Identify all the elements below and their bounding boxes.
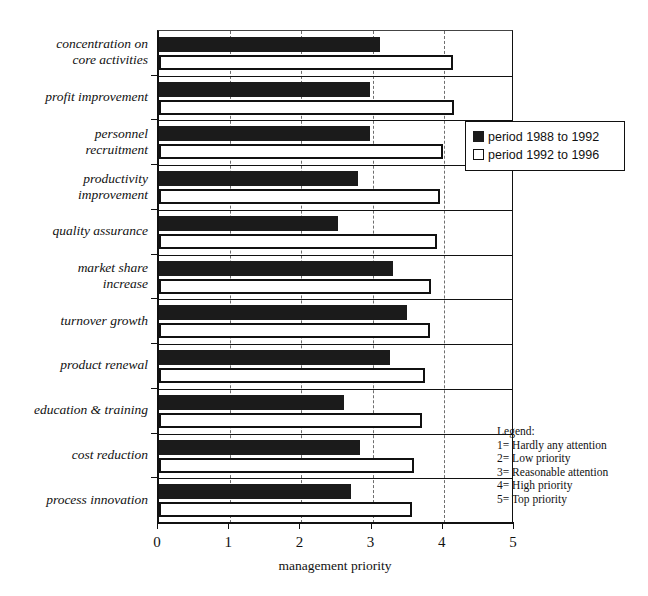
category-separator xyxy=(159,120,512,121)
scale-legend-heading: Legend: xyxy=(497,425,608,439)
scale-legend-line-1: 1= Hardly any attention xyxy=(497,439,608,453)
category-separator xyxy=(159,299,512,300)
scale-legend-line-3: 3= Reasonable attention xyxy=(497,466,608,480)
bar-period-1992-1996 xyxy=(159,502,412,517)
bar-chart: concentration oncore activitiesprofit im… xyxy=(0,0,648,596)
category-label-line: market share xyxy=(0,260,148,276)
legend-swatch-dark xyxy=(473,131,484,142)
bar-period-1988-1992 xyxy=(159,261,393,276)
category-label: education & training xyxy=(0,388,148,433)
category-separator xyxy=(159,76,512,77)
category-label-line: profit improvement xyxy=(0,89,148,105)
x-axis-tick xyxy=(299,522,300,529)
bar-period-1992-1996 xyxy=(159,234,437,249)
x-axis-tick xyxy=(371,522,372,529)
bar-period-1988-1992 xyxy=(159,350,390,365)
category-band xyxy=(159,255,512,300)
category-label-line: product renewal xyxy=(0,357,148,373)
scale-legend-line-5: 5= Top priority xyxy=(497,493,608,507)
x-axis-tick xyxy=(157,522,158,529)
category-band xyxy=(159,434,512,479)
category-separator xyxy=(159,344,512,345)
category-band xyxy=(159,478,512,523)
category-label: quality assurance xyxy=(0,209,148,254)
category-label: turnover growth xyxy=(0,298,148,343)
bar-period-1992-1996 xyxy=(159,323,430,338)
category-separator xyxy=(159,434,512,435)
category-label-line: improvement xyxy=(0,187,148,203)
category-separator xyxy=(159,389,512,390)
x-axis-tick-label: 0 xyxy=(142,534,172,551)
category-label: personnelrecruitment xyxy=(0,119,148,164)
category-label-line: process innovation xyxy=(0,492,148,508)
category-label-line: increase xyxy=(0,276,148,292)
scale-legend-line-4: 4= High priority xyxy=(497,479,608,493)
x-axis-tick-label: 4 xyxy=(427,534,457,551)
category-band xyxy=(159,120,512,165)
x-axis-title: management priority xyxy=(157,558,513,574)
category-separator xyxy=(159,255,512,256)
bar-period-1992-1996 xyxy=(159,144,443,159)
category-separator xyxy=(159,478,512,479)
category-label-line: education & training xyxy=(0,402,148,418)
category-label: cost reduction xyxy=(0,433,148,478)
category-axis: concentration oncore activitiesprofit im… xyxy=(0,30,150,522)
x-axis-line xyxy=(157,522,513,524)
bar-period-1992-1996 xyxy=(159,458,414,473)
category-band xyxy=(159,344,512,389)
category-label: concentration oncore activities xyxy=(0,30,148,75)
scale-legend-line-2: 2= Low priority xyxy=(497,452,608,466)
category-label-line: turnover growth xyxy=(0,313,148,329)
category-label-line: core activities xyxy=(0,52,148,68)
bar-period-1992-1996 xyxy=(159,100,454,115)
category-band xyxy=(159,76,512,121)
legend-swatch-light xyxy=(473,149,484,160)
bar-period-1992-1996 xyxy=(159,279,431,294)
category-band xyxy=(159,389,512,434)
category-band xyxy=(159,31,512,76)
bar-period-1988-1992 xyxy=(159,305,407,320)
category-label: product renewal xyxy=(0,343,148,388)
x-axis-tick-label: 1 xyxy=(213,534,243,551)
scale-legend: Legend: 1= Hardly any attention 2= Low p… xyxy=(497,425,608,506)
category-band xyxy=(159,165,512,210)
legend-item-period-1992-1996: period 1992 to 1996 xyxy=(473,146,618,163)
category-band xyxy=(159,299,512,344)
bar-period-1988-1992 xyxy=(159,171,358,186)
legend-label-2: period 1992 to 1996 xyxy=(488,148,599,162)
bar-period-1992-1996 xyxy=(159,189,440,204)
bar-period-1988-1992 xyxy=(159,395,344,410)
category-label: productivityimprovement xyxy=(0,164,148,209)
category-label-line: productivity xyxy=(0,171,148,187)
category-label-line: personnel xyxy=(0,126,148,142)
x-axis-tick xyxy=(442,522,443,529)
category-label-line: quality assurance xyxy=(0,223,148,239)
category-separator xyxy=(159,165,512,166)
x-axis-tick xyxy=(228,522,229,529)
plot-area xyxy=(157,30,513,522)
legend-item-period-1988-1992: period 1988 to 1992 xyxy=(473,128,618,145)
category-label: market shareincrease xyxy=(0,254,148,299)
x-axis-tick-label: 2 xyxy=(284,534,314,551)
bar-period-1992-1996 xyxy=(159,368,425,383)
x-axis-tick-label: 3 xyxy=(356,534,386,551)
category-label-line: recruitment xyxy=(0,142,148,158)
series-legend: period 1988 to 1992 period 1992 to 1996 xyxy=(465,121,625,171)
bar-period-1988-1992 xyxy=(159,484,351,499)
category-label: profit improvement xyxy=(0,75,148,120)
category-separator xyxy=(159,210,512,211)
bar-period-1988-1992 xyxy=(159,440,360,455)
category-label-line: cost reduction xyxy=(0,447,148,463)
x-axis-tick xyxy=(513,522,514,529)
category-label: process innovation xyxy=(0,477,148,522)
bar-period-1988-1992 xyxy=(159,37,380,52)
bar-period-1992-1996 xyxy=(159,413,422,428)
x-axis-tick-label: 5 xyxy=(498,534,528,551)
category-label-line: concentration on xyxy=(0,36,148,52)
bar-period-1988-1992 xyxy=(159,82,370,97)
category-band xyxy=(159,210,512,255)
bar-period-1988-1992 xyxy=(159,126,370,141)
bar-period-1992-1996 xyxy=(159,55,453,70)
bar-period-1988-1992 xyxy=(159,216,338,231)
legend-label-1: period 1988 to 1992 xyxy=(488,130,599,144)
